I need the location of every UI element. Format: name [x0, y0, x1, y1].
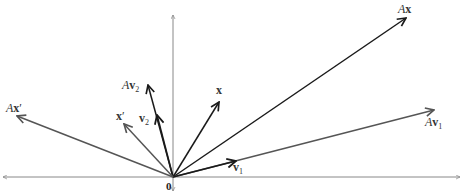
label-v2: v2 [139, 111, 149, 127]
vectors [17, 18, 434, 177]
vector-v1 [173, 161, 236, 177]
label-Axprime: Ax′ [5, 101, 22, 115]
vector-Axprime [17, 116, 173, 177]
label-v1: v1 [233, 160, 243, 176]
axes [3, 15, 460, 191]
label-x: x [216, 83, 222, 97]
label-Av1: Av1 [424, 115, 442, 131]
label-Av2: Av2 [121, 78, 139, 94]
origin-label: 0 [166, 180, 172, 192]
vector-x [173, 102, 219, 177]
label-Ax: Ax [397, 2, 411, 16]
vector-Ax [173, 18, 406, 177]
labels: AxAv1v1xv2Av2x′Ax′ [5, 2, 442, 176]
eigenvector-diagram: AxAv1v1xv2Av2x′Ax′ 0 [0, 0, 462, 196]
label-xprime: x′ [116, 109, 125, 123]
